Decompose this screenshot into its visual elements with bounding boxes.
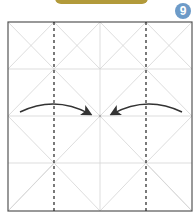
origami-diagram (0, 0, 195, 221)
left-fold-arrow-icon (20, 104, 90, 114)
right-fold-arrow-icon (112, 104, 182, 114)
center-point (99, 115, 101, 117)
